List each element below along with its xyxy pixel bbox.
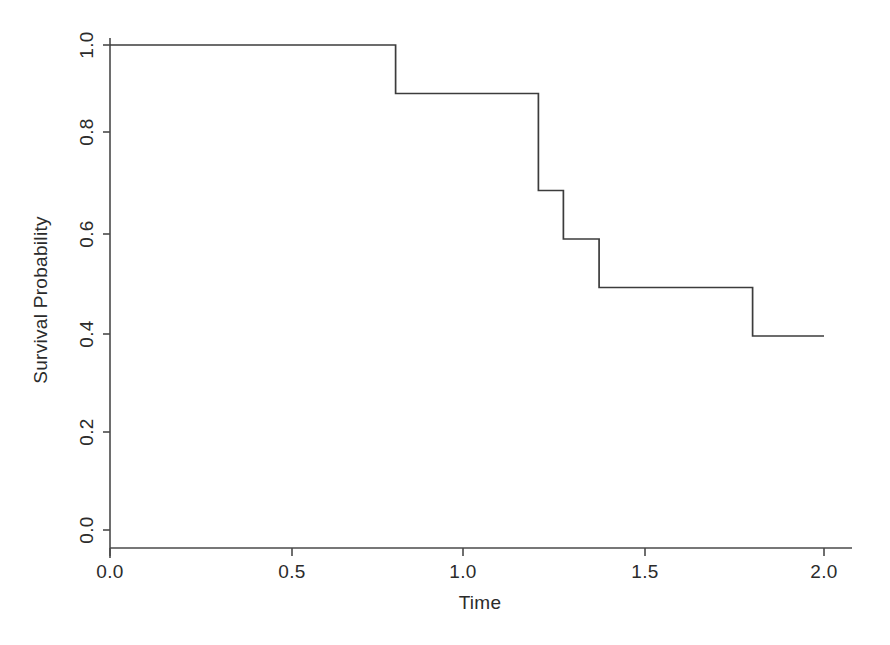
y-tick-label-0.0: 0.0 — [76, 516, 97, 543]
x-axis-ticks — [110, 548, 824, 556]
y-tick-label-0.8: 0.8 — [76, 118, 97, 145]
plot-canvas: 1.0 0.8 0.6 0.4 0.2 0.0 0.0 0.5 1.0 1.5 … — [0, 0, 890, 645]
survival-step-curve — [110, 45, 824, 336]
survival-curve-figure: 1.0 0.8 0.6 0.4 0.2 0.0 0.0 0.5 1.0 1.5 … — [0, 0, 890, 645]
y-axis-tick-labels: 1.0 0.8 0.6 0.4 0.2 0.0 — [76, 31, 97, 543]
x-tick-label-1.0: 1.0 — [449, 561, 476, 582]
y-axis-ticks — [103, 45, 110, 530]
x-tick-label-0.0: 0.0 — [96, 561, 123, 582]
y-axis-title: Survival Probability — [30, 216, 51, 384]
y-tick-label-0.6: 0.6 — [76, 220, 97, 247]
x-axis-tick-labels: 0.0 0.5 1.0 1.5 2.0 — [96, 561, 837, 582]
x-tick-label-2.0: 2.0 — [810, 561, 837, 582]
x-tick-label-0.5: 0.5 — [278, 561, 305, 582]
y-tick-label-0.4: 0.4 — [76, 320, 97, 347]
x-axis-title: Time — [459, 592, 502, 613]
x-tick-label-1.5: 1.5 — [631, 561, 658, 582]
y-tick-label-0.2: 0.2 — [76, 418, 97, 445]
y-tick-label-1.0: 1.0 — [76, 31, 97, 58]
